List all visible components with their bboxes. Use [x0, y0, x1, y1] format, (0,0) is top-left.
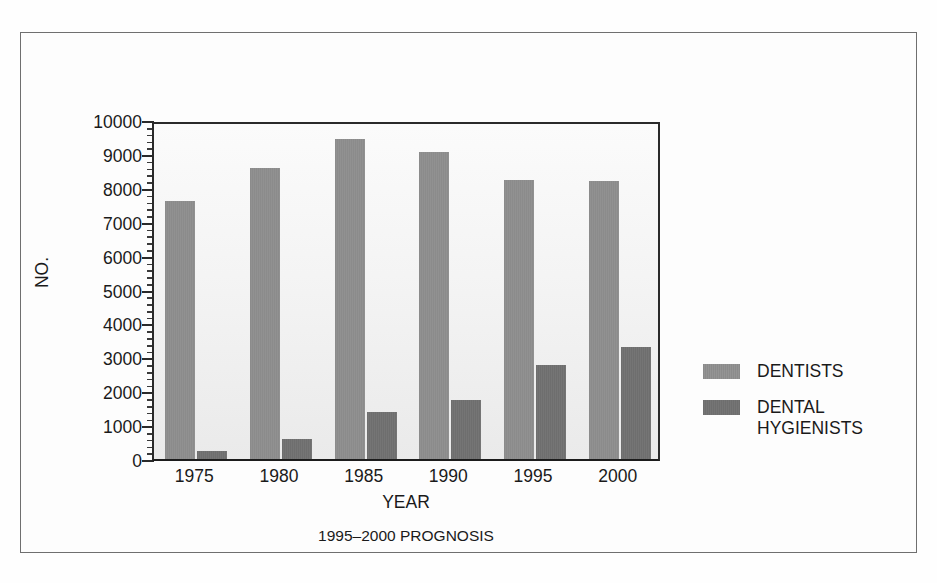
bar-dental-hygienists [367, 412, 397, 459]
bar-group [577, 124, 660, 459]
legend-item: DENTISTS [703, 361, 913, 382]
y-axis-tick-label: 8000 [56, 180, 142, 200]
legend-swatch-dental-hygienists [703, 400, 740, 415]
bar-dentists [419, 152, 449, 459]
bar-dentists [335, 139, 365, 459]
legend-label: DENTISTS [757, 361, 844, 382]
bar-dental-hygienists [197, 451, 227, 459]
plot-area [152, 122, 660, 461]
x-axis-tick-label: 1990 [406, 466, 490, 487]
y-axis-tick-label: 1000 [56, 417, 142, 437]
y-axis-tick-label: 6000 [56, 248, 142, 268]
figure-canvas: NO. 100009000800070006000500040003000200… [0, 0, 937, 583]
x-axis-tick-label: 2000 [576, 466, 660, 487]
y-axis-tick-labels: 1000090008000700060005000400030002000100… [56, 112, 142, 472]
x-axis-tick-label: 1985 [322, 466, 406, 487]
bar-group [493, 124, 578, 459]
bar-group [408, 124, 493, 459]
x-axis-title: YEAR [152, 492, 660, 513]
bar-dentists [250, 168, 280, 459]
legend: DENTISTSDENTAL HYGIENISTS [703, 361, 913, 454]
bar-dental-hygienists [536, 365, 566, 459]
x-axis-tick-labels: 197519801985199019952000 [152, 466, 660, 492]
legend-label: DENTAL HYGIENISTS [757, 397, 863, 439]
y-axis-tick-label: 0 [56, 451, 142, 471]
y-axis-tick-label: 7000 [56, 214, 142, 234]
legend-item: DENTAL HYGIENISTS [703, 397, 913, 439]
y-axis-tick-label: 2000 [56, 383, 142, 403]
bars-layer [154, 124, 658, 459]
bar-group [154, 124, 239, 459]
y-axis-title: NO. [32, 243, 53, 303]
bar-dental-hygienists [282, 439, 312, 459]
bar-dentists [165, 201, 195, 459]
bar-dentists [589, 181, 619, 459]
y-axis-tick-label: 4000 [56, 315, 142, 335]
bar-group [239, 124, 324, 459]
x-axis-tick-label: 1975 [152, 466, 236, 487]
y-axis-tick-label: 10000 [56, 112, 142, 132]
x-axis-tick-label: 1980 [237, 466, 321, 487]
y-axis-tick-label: 9000 [56, 146, 142, 166]
bar-dental-hygienists [451, 400, 481, 459]
bar-dentists [504, 180, 534, 459]
chart-caption: 1995–2000 PROGNOSIS [152, 527, 660, 545]
y-axis-tick-label: 5000 [56, 282, 142, 302]
x-axis-tick-label: 1995 [491, 466, 575, 487]
bar-group [323, 124, 408, 459]
legend-swatch-dentists [703, 364, 740, 379]
y-axis-tick-label: 3000 [56, 349, 142, 369]
bar-dental-hygienists [621, 347, 651, 459]
